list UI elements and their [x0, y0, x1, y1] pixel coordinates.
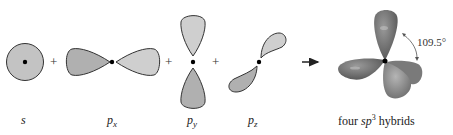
plus-sign: + — [212, 54, 219, 69]
py-orbital — [181, 16, 205, 109]
angle-label: 109.5° — [417, 36, 446, 48]
label-pz: pz — [248, 113, 258, 129]
s-orbital — [7, 44, 44, 81]
label-py: py — [187, 113, 197, 129]
label-px: px — [107, 113, 117, 129]
label-s: s — [21, 113, 26, 128]
hybrids-caption: four sp3 hybrids — [338, 113, 415, 129]
sp3-hybrids — [338, 10, 422, 98]
pz-orbital — [229, 33, 286, 92]
px-orbital — [66, 49, 159, 76]
plus-sign: + — [50, 54, 57, 69]
plus-sign: + — [165, 54, 172, 69]
angle-arc — [404, 35, 417, 58]
